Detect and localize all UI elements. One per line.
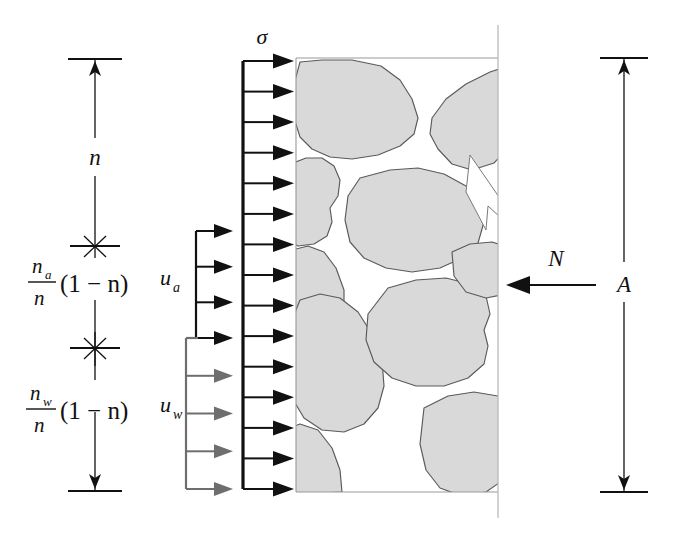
sigma-arrow — [243, 390, 294, 405]
sigma-arrows — [243, 54, 294, 497]
area-dimension-column: A — [600, 58, 648, 492]
left-dimension-column: n n a n (1 − n) n w n (1 − n) — [26, 59, 128, 491]
sigma-arrow — [243, 176, 294, 191]
grain-particle — [420, 392, 522, 496]
water-factor: (1 − n) — [60, 397, 128, 425]
N-arrow-head — [506, 276, 530, 294]
sigma-arrow — [243, 54, 294, 69]
N-label: N — [547, 246, 565, 271]
sigma-arrow — [243, 206, 294, 221]
air-numerator-subscript: a — [45, 267, 52, 282]
uw-arrow-stack: u w — [160, 338, 233, 496]
soil-stress-diagram: σ u a u w — [0, 0, 675, 539]
sigma-arrow — [243, 420, 294, 435]
sigma-arrow — [243, 329, 294, 344]
uw-arrows — [186, 369, 233, 496]
water-numerator-base: n — [30, 381, 41, 405]
sigma-arrow — [243, 298, 294, 313]
uw-arrow — [186, 407, 233, 421]
uw-arrow — [186, 369, 233, 383]
sigma-arrow — [243, 115, 294, 130]
ua-arrow-stack: u a — [160, 224, 233, 345]
sigma-arrow — [243, 451, 294, 466]
ua-label-subscript: a — [173, 280, 180, 295]
sigma-arrow — [243, 359, 294, 374]
diagram-canvas: σ u a u w — [0, 0, 675, 539]
air-fraction-label: n a n (1 − n) — [28, 254, 128, 310]
uw-arrow — [186, 444, 233, 458]
water-denominator: n — [34, 413, 45, 437]
uw-label-base: u — [160, 392, 171, 417]
ua-arrows — [196, 224, 233, 345]
ua-label-base: u — [160, 265, 171, 290]
sigma-arrow-stack: σ — [243, 24, 294, 497]
soil-element-group — [276, 58, 524, 496]
uw-arrow — [186, 482, 233, 496]
water-numerator-subscript: w — [43, 394, 52, 409]
ua-arrow — [196, 260, 233, 274]
sigma-arrow — [243, 84, 294, 99]
air-denominator: n — [34, 286, 45, 310]
sigma-arrow — [243, 145, 294, 160]
sigma-arrow — [243, 268, 294, 283]
ua-arrow — [196, 295, 233, 309]
sigma-arrow — [243, 482, 294, 497]
air-numerator-base: n — [32, 254, 43, 278]
normal-force-arrow: N — [506, 246, 596, 294]
A-label: A — [615, 272, 632, 297]
air-factor: (1 − n) — [60, 270, 128, 298]
ua-arrow — [196, 331, 233, 345]
water-fraction-label: n w n (1 − n) — [26, 381, 128, 437]
sigma-arrow — [243, 237, 294, 252]
uw-label-subscript: w — [173, 407, 183, 422]
sigma-label: σ — [257, 24, 269, 49]
porosity-label: n — [89, 145, 101, 170]
ua-arrow — [196, 224, 233, 238]
dimension-tick-marker — [70, 332, 120, 366]
